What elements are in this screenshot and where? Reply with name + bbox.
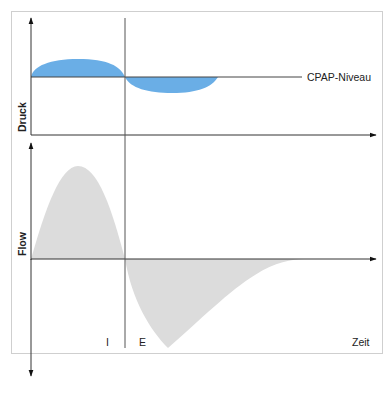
flow-axis-label: Flow xyxy=(16,231,28,256)
pressure-axis-label: Druck xyxy=(16,102,28,132)
flow-expiration-area xyxy=(125,259,305,348)
pressure-positive-area xyxy=(31,59,125,77)
cpap-diagram: CPAP-Niveau Druck Flow I E Zeit xyxy=(0,0,392,393)
inspiration-label: I xyxy=(106,336,109,348)
flow-inspiration-area xyxy=(31,166,125,259)
expiration-label: E xyxy=(139,336,146,348)
time-axis-label: Zeit xyxy=(352,336,370,348)
flow-panel xyxy=(31,143,376,376)
pressure-negative-area xyxy=(125,77,218,93)
cpap-level-label: CPAP-Niveau xyxy=(307,71,371,83)
